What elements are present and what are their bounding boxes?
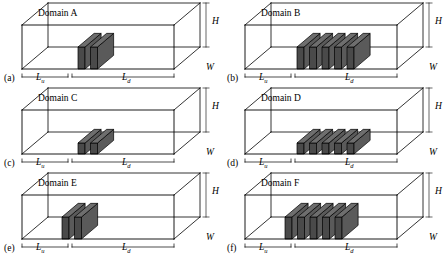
downstream-length-label-b: Ld xyxy=(345,73,354,84)
domain-panel-f: Domain F(f)HWLuLd xyxy=(223,171,446,256)
width-label-e: W xyxy=(206,233,214,243)
height-label-b: H xyxy=(435,17,442,27)
upstream-length-subscript: u xyxy=(41,247,44,254)
height-label-d: H xyxy=(435,102,442,112)
domain-panel-a: Domain A(a)HWLuLd xyxy=(0,1,223,86)
upstream-length-subscript: u xyxy=(264,77,267,84)
domain-title-b: Domain B xyxy=(261,9,300,19)
figure-root: Domain A(a)HWLuLdDomain B(b)HWLuLdDomain… xyxy=(0,0,446,256)
domain-title-c: Domain C xyxy=(38,94,77,104)
downstream-length-label-a: Ld xyxy=(122,73,131,84)
downstream-length-subscript: d xyxy=(127,77,130,84)
downstream-length-label-f: Ld xyxy=(345,243,354,254)
subfigure-letter-d: (d) xyxy=(227,159,238,169)
subfigure-letter-b: (b) xyxy=(227,74,238,84)
width-label-b: W xyxy=(429,63,437,73)
downstream-length-label-c: Ld xyxy=(122,158,131,169)
downstream-length-subscript: d xyxy=(350,247,353,254)
width-label-f: W xyxy=(429,233,437,243)
upstream-length-subscript: u xyxy=(264,247,267,254)
height-label-c: H xyxy=(212,102,219,112)
upstream-length-label-e: Lu xyxy=(36,243,45,254)
upstream-length-subscript: u xyxy=(41,77,44,84)
subfigure-letter-e: (e) xyxy=(4,244,15,254)
upstream-length-label-f: Lu xyxy=(259,243,268,254)
domain-panel-b: Domain B(b)HWLuLd xyxy=(223,1,446,86)
downstream-length-label-e: Ld xyxy=(122,243,131,254)
upstream-length-label-d: Lu xyxy=(259,158,268,169)
upstream-length-subscript: u xyxy=(264,162,267,169)
subfigure-letter-a: (a) xyxy=(4,74,15,84)
upstream-length-label-a: Lu xyxy=(36,73,45,84)
domain-title-f: Domain F xyxy=(261,179,299,189)
upstream-length-subscript: u xyxy=(41,162,44,169)
upstream-length-label-c: Lu xyxy=(36,158,45,169)
domain-panel-c: Domain C(c)HWLuLd xyxy=(0,86,223,171)
width-label-c: W xyxy=(206,148,214,158)
downstream-length-label-d: Ld xyxy=(345,158,354,169)
downstream-length-subscript: d xyxy=(350,162,353,169)
height-label-f: H xyxy=(435,187,442,197)
height-label-e: H xyxy=(212,187,219,197)
width-label-a: W xyxy=(206,63,214,73)
upstream-length-label-b: Lu xyxy=(259,73,268,84)
domain-title-a: Domain A xyxy=(38,9,77,19)
subfigure-letter-f: (f) xyxy=(227,244,237,254)
domain-title-e: Domain E xyxy=(38,179,77,189)
domain-panel-d: Domain D(d)HWLuLd xyxy=(223,86,446,171)
domain-panel-e: Domain E(e)HWLuLd xyxy=(0,171,223,256)
height-label-a: H xyxy=(212,17,219,27)
downstream-length-subscript: d xyxy=(350,77,353,84)
domain-title-d: Domain D xyxy=(261,94,301,104)
downstream-length-subscript: d xyxy=(127,247,130,254)
width-label-d: W xyxy=(429,148,437,158)
downstream-length-subscript: d xyxy=(127,162,130,169)
subfigure-letter-c: (c) xyxy=(4,159,15,169)
